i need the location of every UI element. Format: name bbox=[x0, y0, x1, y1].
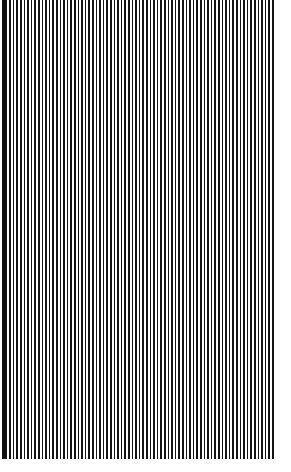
image-canvas bbox=[0, 0, 291, 472]
right-white-margin bbox=[274, 0, 291, 472]
left-white-margin bbox=[0, 0, 2, 472]
bottom-white-margin bbox=[0, 459, 291, 472]
left-edge-dark-bar bbox=[2, 0, 6, 459]
vertical-stripe-field bbox=[2, 0, 274, 459]
